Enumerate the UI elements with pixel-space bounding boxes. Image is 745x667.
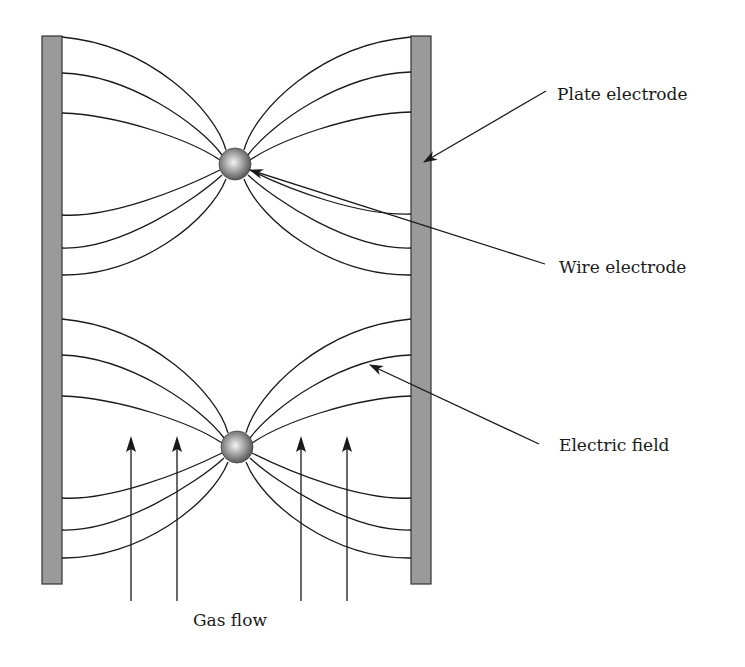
top-wire-electrode — [219, 148, 251, 180]
gas-flow-arrow-icon — [126, 436, 136, 601]
plate-electrode-label: Plate electrode — [557, 86, 688, 103]
gas-flow-arrow-icon — [296, 436, 306, 601]
right-plate-electrode — [411, 36, 431, 584]
wire-electrode-leader-arrow-icon — [250, 170, 545, 264]
electric-field-label: Electric field — [559, 437, 669, 454]
electric-field-leader-arrow-icon — [370, 365, 539, 444]
left-plate-electrode — [42, 36, 62, 584]
gas-flow-label: Gas flow — [193, 612, 267, 629]
plate-electrode-leader-arrow-icon — [424, 91, 546, 162]
gas-flow-arrow-icon — [172, 436, 182, 601]
bottom-wire-electrode — [221, 431, 253, 463]
wire-electrode-label: Wire electrode — [559, 259, 686, 276]
